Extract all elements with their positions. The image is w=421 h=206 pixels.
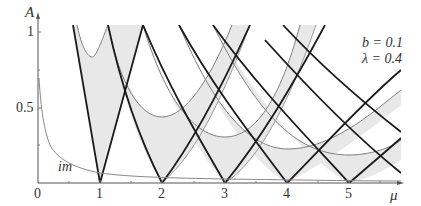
y-axis-arrow-icon xyxy=(36,12,40,19)
x-tick-label-5: 5 xyxy=(345,187,352,201)
im-curve-label: im xyxy=(58,160,72,174)
y-tick-label-0-5: 0.5 xyxy=(16,101,34,115)
param-lambda-label: λ = 0.4 xyxy=(362,52,402,66)
stability-plot xyxy=(0,0,421,206)
x-tick-label-4: 4 xyxy=(283,187,290,201)
plot-area xyxy=(39,25,401,183)
x-axis-arrow-icon xyxy=(397,181,404,185)
x-tick-label-2: 2 xyxy=(158,187,165,201)
y-axis-label: A xyxy=(25,5,34,19)
x-tick-label-1: 1 xyxy=(96,187,103,201)
x-tick-label-3: 3 xyxy=(221,187,228,201)
param-b-label: b = 0.1 xyxy=(362,36,403,50)
x-axis-label: μ xyxy=(390,188,398,202)
y-tick-label-1: 1 xyxy=(27,25,34,39)
x-tick-label-0: 0 xyxy=(34,187,41,201)
